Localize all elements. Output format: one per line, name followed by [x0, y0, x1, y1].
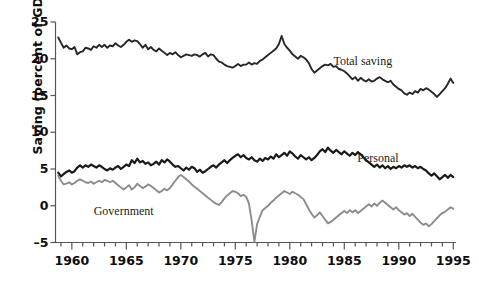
annotation-personal: Personal: [357, 151, 398, 166]
series-line-total-saving: [58, 36, 453, 97]
y-tick-label: 25: [15, 14, 49, 29]
y-tick-label: –5: [15, 235, 49, 250]
plot-area: [0, 0, 479, 285]
savings-chart: Saving (percent of GDP) –50510152025 196…: [0, 0, 479, 285]
x-tick-label: 1970: [151, 253, 211, 268]
annotation-total-saving: Total saving: [333, 54, 392, 69]
x-axis: [56, 243, 457, 250]
y-tick-label: 15: [15, 88, 49, 103]
x-tick-label: 1960: [42, 253, 102, 268]
annotation-government: Government: [94, 204, 154, 219]
x-tick-label: 1985: [314, 253, 374, 268]
x-tick-label: 1995: [423, 253, 479, 268]
y-tick-label: 0: [15, 198, 49, 213]
x-tick-label: 1975: [205, 253, 265, 268]
y-tick-label: 20: [15, 51, 49, 66]
x-tick-label: 1965: [96, 253, 156, 268]
y-tick-label: 10: [15, 124, 49, 139]
x-tick-label: 1990: [369, 253, 429, 268]
x-tick-label: 1980: [260, 253, 320, 268]
y-tick-label: 5: [15, 161, 49, 176]
y-axis: [51, 22, 56, 243]
